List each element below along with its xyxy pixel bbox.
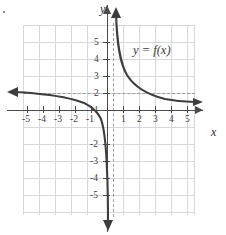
y-axis-label: y (100, 2, 105, 17)
x-axis-label: x (211, 125, 216, 140)
plot-area: -5 -4 -3 -2 -1 1 2 3 4 5 5 4 3 2 1 -2 -3… (23, 25, 195, 215)
corner-dot-marker (3, 11, 5, 13)
graph-figure: y x (0, 0, 226, 235)
function-annotation-label: y = f(x) (133, 43, 171, 58)
